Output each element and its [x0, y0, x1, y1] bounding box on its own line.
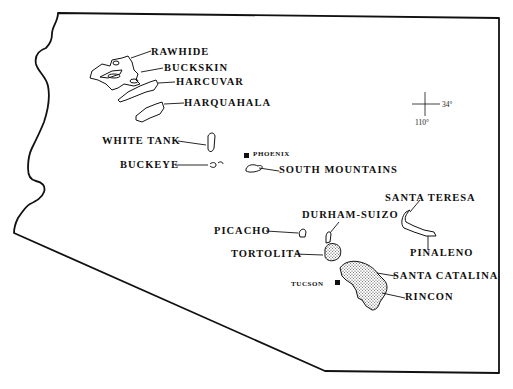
label-buckeye: BUCKEYE — [120, 159, 179, 170]
arizona-map: 34° 110° RAWHIDE BUCKSKIN HARCUVAR HARQU… — [0, 0, 513, 389]
label-harcuvar: HARCUVAR — [176, 76, 244, 87]
label-tortolita: TORTOLITA — [231, 248, 302, 259]
range-santa-catalina-rincon — [340, 261, 387, 310]
label-pinaleno: PINALENO — [410, 247, 473, 258]
range-picacho — [299, 229, 306, 237]
range-pinaleno — [402, 210, 436, 236]
label-buckskin: BUCKSKIN — [164, 62, 228, 73]
range-white-tank — [208, 133, 215, 152]
range-buckeye — [210, 162, 223, 167]
range-tortolita — [325, 243, 341, 260]
range-durham-suizo — [326, 232, 331, 243]
label-picacho: PICACHO — [214, 225, 271, 236]
longitude-label: 110° — [415, 118, 429, 127]
label-harquahala: HARQUAHALA — [184, 97, 271, 108]
label-durham-suizo: DURHAM-SUIZO — [302, 209, 399, 220]
label-rawhide: RAWHIDE — [151, 46, 209, 57]
label-rincon: RINCON — [405, 291, 454, 302]
city-tucson-marker — [335, 280, 340, 285]
label-white-tank: WHITE TANK — [102, 135, 181, 146]
latitude-label: 34° — [442, 100, 453, 109]
label-tucson: TUCSON — [291, 280, 324, 288]
label-santa-teresa: SANTA TERESA — [385, 192, 476, 203]
city-phoenix-marker — [244, 153, 249, 158]
range-rawhide-buckskin — [90, 56, 140, 90]
label-south-mountains: SOUTH MOUNTAINS — [279, 164, 398, 175]
reference-crosshair: 34° 110° — [412, 92, 453, 127]
range-harcuvar — [118, 80, 158, 102]
label-santa-catalina: SANTA CATALINA — [393, 270, 498, 281]
range-harquahala — [136, 102, 164, 122]
label-phoenix: PHOENIX — [253, 150, 290, 158]
